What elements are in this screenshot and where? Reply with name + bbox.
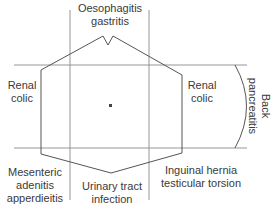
label-line: Mesenteric	[4, 166, 66, 179]
label-mesenteric-adenitis: Mesenteric adenitis apperdieitis	[4, 166, 66, 205]
label-line: colic	[184, 92, 220, 105]
label-line: infection	[76, 193, 148, 206]
label-line: Renal	[184, 79, 220, 92]
label-line: gastritis	[72, 15, 148, 28]
label-line: Urinary tract	[76, 180, 148, 193]
label-line: testicular torsion	[158, 177, 244, 190]
label-line: Inguinal hernia	[158, 164, 244, 177]
label-line: apperdieitis	[4, 192, 66, 205]
label-urinary-tract-infection: Urinary tract infection	[76, 180, 148, 206]
label-line: Oesophagitis	[72, 2, 148, 15]
label-inguinal-hernia: Inguinal hernia testicular torsion	[158, 164, 244, 190]
label-oesophagitis-gastritis: Oesophagitis gastritis	[72, 2, 148, 28]
label-renal-colic-right: Renal colic	[184, 79, 220, 105]
label-line: pancreatitis	[246, 71, 259, 141]
label-back-pancreatitis: Back pancreatitis	[246, 71, 272, 141]
label-line: adenitis	[4, 179, 66, 192]
label-renal-colic-left: Renal colic	[4, 79, 40, 105]
label-line: Back	[259, 71, 272, 141]
umbilicus-dot	[109, 104, 112, 107]
label-line: colic	[4, 92, 40, 105]
label-line: Renal	[4, 79, 40, 92]
back-bracket	[235, 65, 247, 148]
